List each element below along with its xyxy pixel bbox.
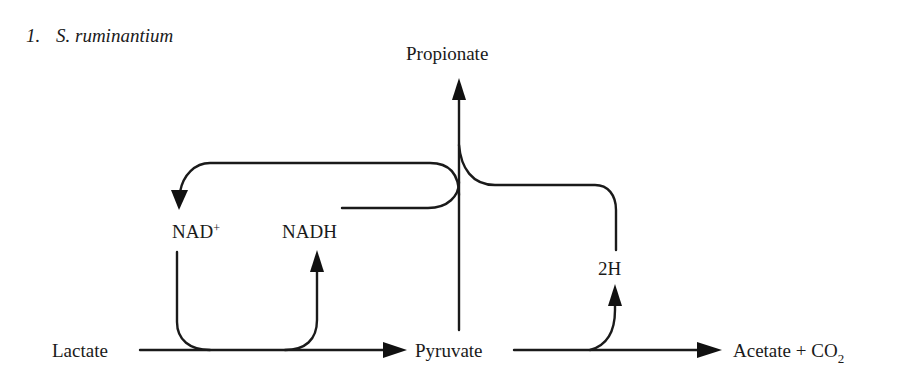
- label-propionate: Propionate: [406, 43, 488, 64]
- arrowhead-right-icon: [697, 342, 722, 358]
- reoxidation-loop-line: [180, 163, 459, 195]
- pyruvate-to-2h-line: [590, 302, 615, 350]
- label-pyruvate: Pyruvate: [415, 340, 483, 361]
- label-nad-plus: NAD+: [172, 221, 220, 242]
- arrowhead-down-icon: [171, 190, 188, 210]
- arrowhead-up-icon: [608, 284, 622, 306]
- diagram-title-number: 1.: [26, 25, 40, 46]
- label-lactate: Lactate: [52, 340, 108, 361]
- nadh-connector-line: [342, 182, 459, 208]
- label-nadh: NADH: [282, 221, 337, 242]
- label-acetate-co2: Acetate + CO2: [733, 340, 844, 366]
- diagram-canvas: 1. S. ruminantium Propionate NAD+ NADH 2…: [0, 0, 907, 380]
- nad-plus-to-main-line: [177, 252, 210, 350]
- label-2h: 2H: [598, 258, 622, 279]
- pathway-diagram: 1. S. ruminantium Propionate NAD+ NADH 2…: [0, 0, 907, 380]
- arrowhead-right-icon: [383, 342, 407, 358]
- diagram-title-organism: S. ruminantium: [56, 25, 173, 46]
- hydrogen-loop-line: [459, 145, 616, 250]
- main-to-nadh-line: [285, 270, 317, 350]
- arrowhead-up-icon: [452, 78, 466, 100]
- arrowhead-up-icon: [310, 250, 324, 272]
